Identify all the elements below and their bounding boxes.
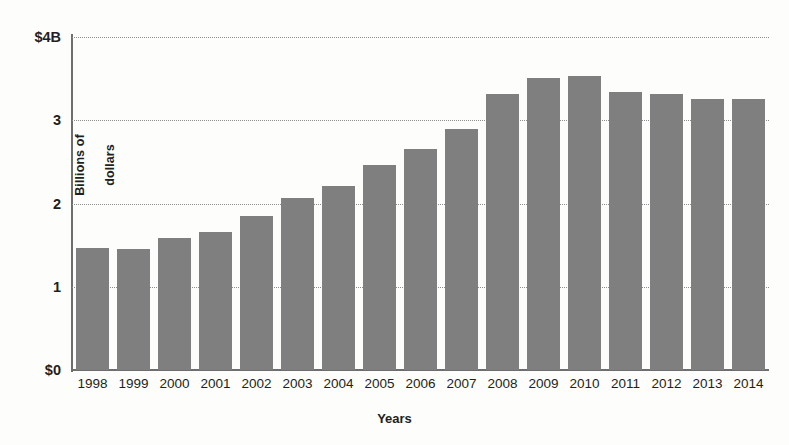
bar-2008 bbox=[486, 37, 519, 370]
bar-chart-figure: Billions of dollars $0123$4B 19981999200… bbox=[0, 0, 789, 445]
x-tick-label-2007: 2007 bbox=[441, 374, 482, 394]
bar-rect-2003 bbox=[281, 198, 314, 370]
y-tick-label-3: 3 bbox=[1, 113, 61, 128]
bar-2012 bbox=[650, 37, 683, 370]
bar-rect-2006 bbox=[404, 149, 437, 370]
bar-1999 bbox=[117, 37, 150, 370]
bar-rect-2004 bbox=[322, 186, 355, 370]
bar-2014 bbox=[732, 37, 765, 370]
bar-rect-2002 bbox=[240, 216, 273, 370]
x-tick-label-2008: 2008 bbox=[482, 374, 523, 394]
bar-2000 bbox=[158, 37, 191, 370]
bar-rect-2000 bbox=[158, 238, 191, 370]
x-tick-label-2012: 2012 bbox=[646, 374, 687, 394]
x-tick-label-2003: 2003 bbox=[277, 374, 318, 394]
bar-rect-2010 bbox=[568, 76, 601, 370]
bar-rect-1998 bbox=[76, 248, 109, 370]
x-tick-label-2002: 2002 bbox=[236, 374, 277, 394]
x-tick-label-2013: 2013 bbox=[687, 374, 728, 394]
x-tick-label-1999: 1999 bbox=[113, 374, 154, 394]
bar-2010 bbox=[568, 37, 601, 370]
y-tick-label-2: 2 bbox=[1, 197, 61, 212]
x-tick-label-2010: 2010 bbox=[564, 374, 605, 394]
x-tick-label-2005: 2005 bbox=[359, 374, 400, 394]
bar-rect-2008 bbox=[486, 94, 519, 370]
bar-rect-2013 bbox=[691, 99, 724, 370]
bar-2004 bbox=[322, 37, 355, 370]
bar-2006 bbox=[404, 37, 437, 370]
bar-1998 bbox=[76, 37, 109, 370]
x-tick-label-2009: 2009 bbox=[523, 374, 564, 394]
x-tick-labels: 1998199920002001200220032004200520062007… bbox=[72, 374, 769, 396]
bar-rect-2014 bbox=[732, 99, 765, 370]
bar-rect-2011 bbox=[609, 92, 642, 370]
bar-rect-2001 bbox=[199, 232, 232, 370]
bar-2007 bbox=[445, 37, 478, 370]
x-tick-label-2014: 2014 bbox=[728, 374, 769, 394]
bar-2009 bbox=[527, 37, 560, 370]
x-tick-label-2011: 2011 bbox=[605, 374, 646, 394]
bar-2002 bbox=[240, 37, 273, 370]
x-tick-label-1998: 1998 bbox=[72, 374, 113, 394]
bar-rect-1999 bbox=[117, 249, 150, 370]
bar-2001 bbox=[199, 37, 232, 370]
bar-2005 bbox=[363, 37, 396, 370]
bar-rect-2005 bbox=[363, 165, 396, 370]
y-tick-label-4: $4B bbox=[1, 30, 61, 45]
bar-rect-2012 bbox=[650, 94, 683, 370]
x-tick-label-2004: 2004 bbox=[318, 374, 359, 394]
x-tick-label-2001: 2001 bbox=[195, 374, 236, 394]
bar-2011 bbox=[609, 37, 642, 370]
bar-2013 bbox=[691, 37, 724, 370]
x-tick-label-2000: 2000 bbox=[154, 374, 195, 394]
y-tick-label-1: 1 bbox=[1, 280, 61, 295]
x-tick-label-2006: 2006 bbox=[400, 374, 441, 394]
bar-rect-2007 bbox=[445, 129, 478, 370]
y-tick-label-0: $0 bbox=[1, 363, 61, 378]
x-axis-title: Years bbox=[0, 411, 789, 426]
bars bbox=[72, 37, 769, 370]
bar-2003 bbox=[281, 37, 314, 370]
bar-rect-2009 bbox=[527, 78, 560, 370]
